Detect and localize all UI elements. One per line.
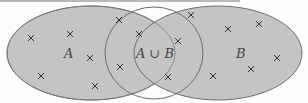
set-b-label: B [235,46,246,61]
set-a-label: A [63,46,73,61]
venn-diagram: A A ∪ B B [0,0,308,103]
union-label: A ∪ B [135,46,174,61]
venn-canvas: A A ∪ B B [0,0,308,103]
